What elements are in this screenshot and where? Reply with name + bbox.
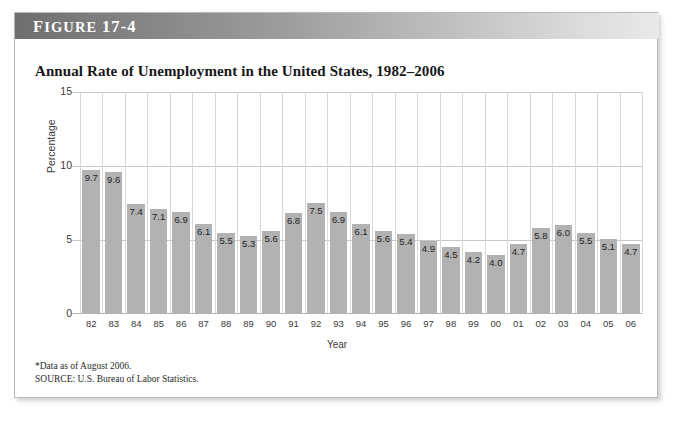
x-axis-ticks: 8283848586878889909192939495969798990001… [80, 318, 642, 334]
bar-slot: 6.0 [555, 92, 573, 314]
x-tick-label: 00 [485, 318, 507, 329]
y-tick-label: 10 [46, 159, 72, 171]
bar-value-label: 6.8 [285, 215, 303, 226]
bar[interactable]: 4.7 [622, 244, 640, 314]
bar-slot: 6.1 [195, 92, 213, 314]
x-tick-label: 03 [552, 318, 574, 329]
bar-slot: 6.9 [330, 92, 348, 314]
bar[interactable]: 6.1 [352, 224, 370, 314]
bar[interactable]: 9.7 [82, 170, 100, 314]
bar-value-label: 5.6 [375, 233, 393, 244]
bar[interactable]: 4.7 [510, 244, 528, 314]
y-tick-label: 15 [46, 85, 72, 97]
bar-slot: 6.9 [172, 92, 190, 314]
bar-slot: 7.1 [150, 92, 168, 314]
bar[interactable]: 5.3 [240, 236, 258, 314]
footnote-data-asof: *Data as of August 2006. [35, 360, 199, 373]
bar-slot: 6.1 [352, 92, 370, 314]
bar-slot: 4.7 [510, 92, 528, 314]
x-tick-label: 05 [597, 318, 619, 329]
x-tick-label: 90 [260, 318, 282, 329]
bar-value-label: 6.9 [330, 214, 348, 225]
x-tick-label: 94 [350, 318, 372, 329]
x-tick-label: 87 [192, 318, 214, 329]
x-tick-label: 97 [417, 318, 439, 329]
bar[interactable]: 4.9 [420, 241, 438, 314]
x-tick-label: 98 [440, 318, 462, 329]
bar-value-label: 4.2 [465, 254, 483, 265]
bar-slot: 5.6 [262, 92, 280, 314]
bar[interactable]: 5.4 [397, 234, 415, 314]
bar[interactable]: 6.1 [195, 224, 213, 314]
bar-slot: 6.8 [285, 92, 303, 314]
bar-slot: 5.5 [577, 92, 595, 314]
bar[interactable]: 6.9 [330, 212, 348, 314]
bar[interactable]: 4.2 [465, 252, 483, 314]
bar[interactable]: 6.9 [172, 212, 190, 314]
bar-value-label: 5.5 [217, 235, 235, 246]
x-tick-label: 86 [170, 318, 192, 329]
bar[interactable]: 5.5 [577, 233, 595, 314]
bar-value-label: 5.8 [532, 230, 550, 241]
x-tick-label: 89 [237, 318, 259, 329]
y-tick-label: 5 [46, 233, 72, 245]
footnote-source: SOURCE: U.S. Bureau of Labor Statistics. [35, 373, 199, 386]
bar-slot: 4.2 [465, 92, 483, 314]
bar-slot: 5.1 [600, 92, 618, 314]
bar-value-label: 4.0 [487, 257, 505, 268]
bar[interactable]: 5.8 [532, 228, 550, 314]
x-axis-title: Year [15, 339, 659, 350]
bar[interactable]: 6.8 [285, 213, 303, 314]
x-tick-label: 88 [215, 318, 237, 329]
bar-value-label: 4.5 [442, 249, 460, 260]
bar[interactable]: 4.0 [487, 255, 505, 314]
bar-slot: 9.6 [105, 92, 123, 314]
bar-slot: 7.4 [127, 92, 145, 314]
bar-slot: 5.5 [217, 92, 235, 314]
bar[interactable]: 7.5 [307, 203, 325, 314]
figure-footnotes: *Data as of August 2006. SOURCE: U.S. Bu… [35, 360, 199, 385]
bar-slot: 5.3 [240, 92, 258, 314]
bar[interactable]: 9.6 [105, 172, 123, 314]
bar-value-label: 5.3 [240, 238, 258, 249]
bar-value-label: 7.4 [127, 206, 145, 217]
bar-value-label: 4.7 [622, 246, 640, 257]
bar[interactable]: 7.1 [150, 209, 168, 314]
figure-card: FIGURE 17-4 Annual Rate of Unemployment … [14, 12, 658, 398]
bar[interactable]: 4.5 [442, 247, 460, 314]
bar-value-label: 4.7 [510, 246, 528, 257]
bar-slot: 5.8 [532, 92, 550, 314]
bar-slot: 5.4 [397, 92, 415, 314]
bar-slot: 7.5 [307, 92, 325, 314]
x-tick-label: 93 [327, 318, 349, 329]
gridline-v-25 [642, 92, 643, 314]
x-tick-label: 95 [372, 318, 394, 329]
plot-area: 051015 9.79.67.47.16.96.15.55.35.66.87.5… [80, 92, 642, 314]
x-tick-label: 96 [395, 318, 417, 329]
x-tick-label: 92 [305, 318, 327, 329]
y-tick-label: 0 [46, 307, 72, 319]
x-tick-label: 85 [147, 318, 169, 329]
bar-value-label: 4.9 [420, 243, 438, 254]
x-tick-label: 84 [125, 318, 147, 329]
x-tick-label: 01 [507, 318, 529, 329]
bar[interactable]: 5.5 [217, 233, 235, 314]
x-tick-label: 82 [80, 318, 102, 329]
bar-value-label: 9.7 [82, 172, 100, 183]
bar-value-label: 5.4 [397, 236, 415, 247]
bar[interactable]: 7.4 [127, 204, 145, 314]
bar-value-label: 5.1 [600, 241, 618, 252]
bar-value-label: 7.5 [307, 205, 325, 216]
x-tick-label: 99 [462, 318, 484, 329]
bar[interactable]: 5.1 [600, 239, 618, 314]
bar-slot: 9.7 [82, 92, 100, 314]
bar[interactable]: 5.6 [262, 231, 280, 314]
bar-value-label: 7.1 [150, 211, 168, 222]
x-tick-label: 83 [102, 318, 124, 329]
bar-series: 9.79.67.47.16.96.15.55.35.66.87.56.96.15… [80, 92, 642, 314]
bar[interactable]: 5.6 [375, 231, 393, 314]
bar-slot: 5.6 [375, 92, 393, 314]
bar[interactable]: 6.0 [555, 225, 573, 314]
bar-value-label: 6.1 [352, 226, 370, 237]
chart-plot-wrapper: Percentage 051015 9.79.67.47.16.96.15.55… [15, 13, 659, 399]
